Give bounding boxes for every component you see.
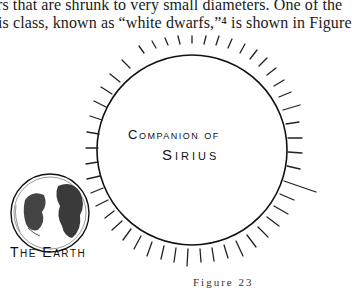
figure-caption: Figure 23 [193, 276, 253, 288]
sirius-label: Sirius [162, 146, 219, 163]
companion-of-sirius-label: Companion of [128, 127, 220, 142]
earth-label: The Earth [10, 244, 86, 260]
earth-globe [11, 174, 89, 252]
